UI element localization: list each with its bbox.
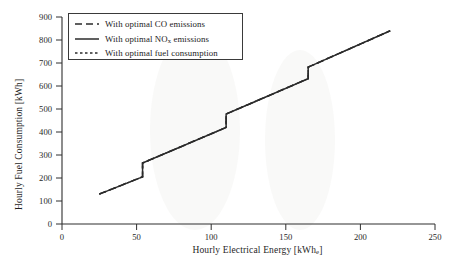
legend-item-co-emissions: With optimal CO emissions	[74, 17, 205, 31]
x-axis-title: Hourly Electrical Energy [kWhe]	[26, 245, 463, 255]
chart-figure: 0 100 200 300 400 500 600 700 800 900 0 …	[0, 0, 463, 273]
legend-label-nox-post: emissions	[171, 34, 209, 44]
x-axis-title-tail: ]	[319, 245, 322, 255]
y-axis-title: Hourly Fuel Consumption [kWh]	[14, 79, 24, 210]
y-axis-ticks	[56, 17, 62, 224]
y-tick-label-800: 800	[18, 35, 52, 45]
legend-label-co-emissions: With optimal CO emissions	[105, 19, 205, 29]
x-tick-label-0: 0	[45, 232, 79, 242]
chart-legend: With optimal CO emissions With optimal N…	[68, 13, 243, 60]
y-tick-label-700: 700	[18, 58, 52, 68]
legend-item-fuel-consumption: With optimal fuel consumption	[74, 46, 218, 60]
legend-label-fuel-consumption: With optimal fuel consumption	[105, 48, 218, 58]
x-tick-label-100: 100	[194, 232, 228, 242]
x-axis-title-main: Hourly Electrical Energy [kWh	[192, 245, 316, 255]
y-tick-label-900: 900	[18, 12, 52, 22]
x-tick-label-150: 150	[269, 232, 303, 242]
legend-label-nox-emissions: With optimal NOx emissions	[105, 34, 209, 44]
legend-swatch-solid	[74, 34, 100, 44]
x-axis-ticks	[62, 224, 435, 230]
x-tick-label-50: 50	[120, 232, 154, 242]
legend-item-nox-emissions: With optimal NOx emissions	[74, 32, 209, 46]
legend-swatch-dashed	[74, 19, 100, 29]
x-tick-label-200: 200	[343, 232, 377, 242]
legend-swatch-dotted	[74, 48, 100, 58]
legend-label-nox-pre: With optimal NO	[105, 34, 168, 44]
x-tick-label-250: 250	[418, 232, 452, 242]
y-tick-label-0: 0	[18, 219, 52, 229]
